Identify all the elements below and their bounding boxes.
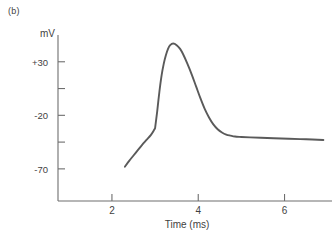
membrane-potential-trace [125, 44, 323, 167]
tick-marks-group [58, 62, 285, 201]
axes-group [58, 35, 332, 201]
x-tick-label: 2 [102, 205, 122, 216]
x-tick-label: 6 [275, 205, 295, 216]
x-axis-title: Time (ms) [165, 219, 210, 230]
x-axis-title-wrapper: Time (ms) [0, 219, 334, 230]
panel-label: (b) [8, 6, 20, 16]
x-tick-label: 4 [188, 205, 208, 216]
y-tick-label: +30 [14, 56, 48, 67]
y-tick-label: -20 [14, 110, 48, 121]
y-tick-label: -70 [14, 163, 48, 174]
y-axis-unit-label: mV [40, 28, 55, 39]
action-potential-figure: (b) mV +30-20-70 246 Time (ms) [0, 0, 334, 241]
